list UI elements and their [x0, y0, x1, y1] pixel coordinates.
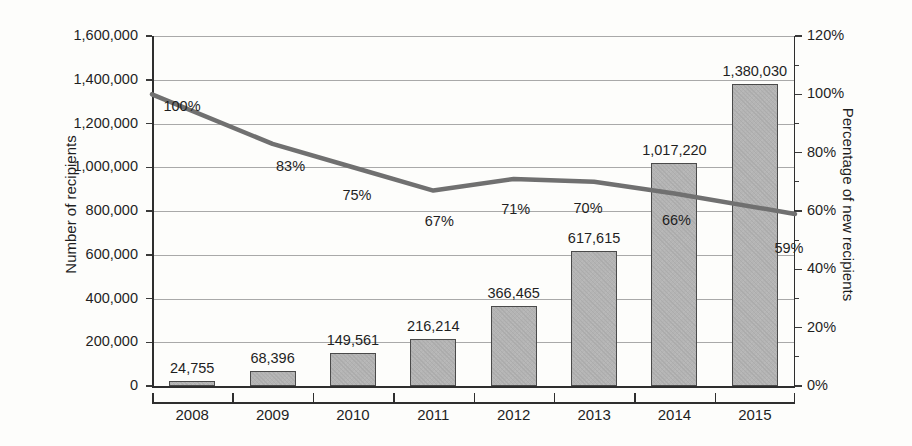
chart-container: Number of recipients Percentage of new r…	[0, 0, 912, 446]
y-axis-right-tick-label: 20%	[807, 319, 897, 335]
y-axis-left-tick-label: 0	[28, 377, 138, 393]
y-axis-right-tick-label: 60%	[807, 202, 897, 218]
y-axis-left-tick-label: 1,000,000	[28, 158, 138, 174]
gridline	[152, 386, 795, 388]
y-axis-left-tick-label: 800,000	[28, 202, 138, 218]
x-axis-tick	[554, 393, 556, 403]
y-axis-right-tick-mark	[795, 269, 802, 271]
y-axis-right-minor-tick-mark	[795, 356, 799, 357]
x-axis-tick	[474, 393, 476, 403]
y-axis-right-tick-mark	[795, 35, 802, 37]
bar-value-label: 68,396	[250, 350, 294, 366]
x-axis-tick	[715, 393, 717, 403]
y-axis-right-tick-label: 120%	[807, 27, 897, 43]
y-axis-right-tick-label: 0%	[807, 377, 897, 393]
x-axis-category-label: 2013	[577, 406, 610, 423]
y-axis-left-tick-label: 200,000	[28, 333, 138, 349]
x-axis-category-label: 2010	[336, 406, 369, 423]
x-axis-category-label: 2012	[497, 406, 530, 423]
y-axis-right-tick-mark	[795, 327, 802, 329]
bar-value-label: 366,465	[487, 285, 539, 301]
percentage-value-label: 59%	[774, 240, 803, 256]
plot-area	[152, 36, 795, 386]
percentage-value-label: 75%	[342, 187, 371, 203]
y-axis-right-minor-tick-mark	[795, 298, 799, 299]
y-axis-right-tick-mark	[795, 94, 802, 96]
x-axis-tick	[634, 393, 636, 403]
x-axis-category-label: 2015	[738, 406, 771, 423]
y-axis-right-tick-mark	[795, 210, 802, 212]
x-axis-category-label: 2011	[417, 406, 449, 423]
x-axis-tick	[794, 393, 796, 403]
bar-value-label: 617,615	[568, 230, 620, 246]
bar-value-label: 216,214	[407, 318, 459, 334]
line-series	[152, 36, 795, 386]
x-axis-tick	[313, 393, 315, 403]
percentage-value-label: 67%	[425, 213, 454, 229]
x-axis-category-label: 2014	[658, 406, 691, 423]
y-axis-left-tick-label: 1,200,000	[28, 115, 138, 131]
x-axis-tick	[232, 393, 234, 403]
percentage-value-label: 83%	[276, 158, 305, 174]
x-axis-tick	[152, 393, 154, 403]
percentage-value-label: 66%	[662, 212, 691, 228]
y-axis-right-minor-tick-mark	[795, 65, 799, 66]
bar-value-label: 149,561	[327, 332, 379, 348]
y-axis-left-tick-label: 600,000	[28, 246, 138, 262]
x-axis-category-label: 2009	[256, 406, 289, 423]
y-axis-right-minor-tick-mark	[795, 123, 799, 124]
bar-value-label: 1,017,220	[642, 142, 707, 158]
y-axis-left-tick-label: 1,600,000	[28, 27, 138, 43]
y-axis-right-tick-label: 100%	[807, 85, 897, 101]
y-axis-right-tick-mark	[795, 385, 802, 387]
y-axis-right-minor-tick-mark	[795, 181, 799, 182]
x-axis	[152, 393, 795, 403]
percentage-value-label: 71%	[501, 201, 530, 217]
y-axis-left-tick-label: 1,400,000	[28, 71, 138, 87]
bar-value-label: 24,755	[170, 360, 214, 376]
percentage-value-label: 100%	[163, 98, 200, 114]
y-axis-left-tick-label: 400,000	[28, 290, 138, 306]
percentage-value-label: 70%	[574, 200, 603, 216]
x-axis-category-label: 2008	[176, 406, 209, 423]
x-axis-tick	[393, 393, 395, 403]
bar-value-label: 1,380,030	[723, 63, 788, 79]
y-axis-right-tick-label: 40%	[807, 260, 897, 276]
y-axis-right-tick-label: 80%	[807, 144, 897, 160]
y-axis-right-tick-mark	[795, 152, 802, 154]
